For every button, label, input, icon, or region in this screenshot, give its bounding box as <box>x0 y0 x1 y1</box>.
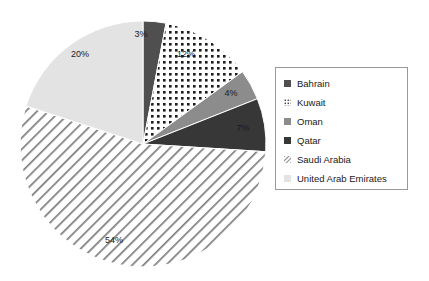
legend-item-saudi-arabia[interactable]: Saudi Arabia <box>284 150 407 169</box>
legend-item-oman[interactable]: Oman <box>284 112 407 131</box>
swatch-dots-icon <box>284 99 291 106</box>
legend-label: Kuwait <box>297 98 326 108</box>
slice-value-label-qatar: 7% <box>236 123 249 133</box>
legend-item-united-arab-emirates[interactable]: United Arab Emirates <box>284 169 407 188</box>
slice-value-label-saudi-arabia: 54% <box>105 235 123 245</box>
legend-label: Qatar <box>297 136 321 146</box>
swatch-solid-dark-gray-icon <box>284 80 291 87</box>
legend-label: Bahrain <box>297 79 330 89</box>
legend-item-kuwait[interactable]: Kuwait <box>284 93 407 112</box>
swatch-solid-medium-gray-icon <box>284 118 291 125</box>
swatch-solid-near-black-icon <box>284 137 291 144</box>
chart-legend: BahrainKuwaitOmanQatarSaudi ArabiaUnited… <box>275 67 408 190</box>
legend-item-list: BahrainKuwaitOmanQatarSaudi ArabiaUnited… <box>276 68 407 189</box>
legend-label: United Arab Emirates <box>297 174 387 184</box>
slice-value-label-united-arab-emirates: 20% <box>71 49 89 59</box>
legend-item-bahrain[interactable]: Bahrain <box>284 74 407 93</box>
legend-item-qatar[interactable]: Qatar <box>284 131 407 150</box>
slice-value-label-kuwait: 12% <box>177 49 195 59</box>
slice-value-label-bahrain: 3% <box>134 29 147 39</box>
slice-value-label-oman: 4% <box>224 88 237 98</box>
legend-label: Saudi Arabia <box>297 155 351 165</box>
swatch-hatch-icon <box>284 156 291 163</box>
pie-slices <box>20 21 266 267</box>
swatch-solid-light-gray-icon <box>284 175 291 182</box>
legend-label: Oman <box>297 117 323 127</box>
pie-chart-figure: 3%12%4%7%54%20% BahrainKuwaitOmanQatarSa… <box>0 0 429 281</box>
